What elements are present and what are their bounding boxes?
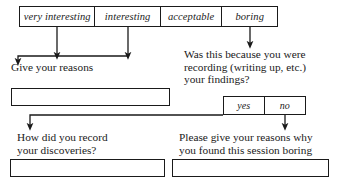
was-this-because-prompt: Was this because you were recording (wri… (184, 48, 336, 86)
yes-no-option-yes[interactable]: yes (224, 97, 265, 114)
scale-option-label: acceptable (168, 11, 214, 22)
scale-option-very-interesting[interactable]: very interesting (20, 7, 95, 26)
give-your-reasons-answer-box[interactable] (11, 88, 170, 106)
scale-option-acceptable[interactable]: acceptable (161, 7, 223, 26)
yes-no-choice: yes no (223, 96, 306, 115)
yes-no-option-no[interactable]: no (265, 97, 306, 114)
scale-option-boring[interactable]: boring (222, 7, 277, 26)
yes-no-option-label: yes (237, 100, 250, 111)
scale-option-label: interesting (105, 11, 151, 22)
rating-scale: very interesting interesting acceptable … (19, 6, 278, 27)
scale-option-label: very interesting (24, 11, 91, 22)
yes-no-option-label: no (280, 100, 290, 111)
connector-interesting-to-give-reasons (18, 27, 128, 62)
give-your-reasons-prompt: Give your reasons (11, 61, 176, 74)
connector-yes-to-how-did-you-record (30, 115, 223, 127)
why-boring-prompt: Please give your reasons why you found t… (179, 131, 335, 156)
scale-option-interesting[interactable]: interesting (95, 7, 160, 26)
questionnaire-flowchart: very interesting interesting acceptable … (0, 0, 338, 183)
how-did-you-record-prompt: How did you record your discoveries? (17, 131, 167, 156)
why-boring-answer-box[interactable] (172, 159, 329, 177)
scale-option-label: boring (235, 11, 264, 22)
how-did-you-record-answer-box[interactable] (10, 159, 165, 177)
